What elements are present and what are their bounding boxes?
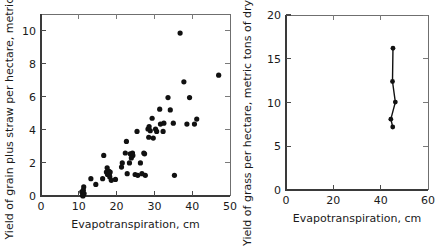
- data-point: [134, 129, 139, 134]
- data-point: [157, 107, 162, 112]
- scatter-chart-grain-yield: 010203040500246810Evapotranspiration, cm…: [0, 0, 238, 248]
- plot-axes: [41, 14, 230, 196]
- y-tick-label: 0: [29, 190, 36, 203]
- plot-frame: [41, 14, 230, 196]
- data-point: [216, 73, 221, 78]
- y-axis-title: Yield of grain plus straw per hectare, m…: [3, 0, 16, 240]
- plot-frame: [286, 15, 428, 190]
- chart-panel-right: 020406005101520Evapotranspiration, cmYie…: [238, 0, 440, 248]
- data-point: [142, 151, 147, 156]
- y-axis-title: Yield of grass per hectare, metric tons …: [241, 0, 254, 247]
- line-chart-grass-yield: 020406005101520Evapotranspiration, cmYie…: [238, 0, 440, 248]
- series-line: [391, 48, 395, 127]
- x-axis-title: Evapotranspiration, cm: [293, 212, 421, 225]
- data-point: [138, 160, 143, 165]
- data-point: [393, 100, 398, 105]
- data-point: [388, 117, 393, 122]
- x-tick-label: 40: [374, 194, 388, 207]
- chart-panel-left: 010203040500246810Evapotranspiration, cm…: [0, 0, 238, 248]
- data-point: [113, 177, 118, 182]
- data-point: [165, 95, 170, 100]
- data-point: [168, 107, 173, 112]
- data-point: [80, 193, 85, 198]
- x-tick-label: 50: [223, 200, 237, 213]
- x-tick-label: 30: [147, 200, 161, 213]
- data-point: [154, 129, 159, 134]
- data-point: [391, 46, 396, 51]
- x-tick-label: 40: [185, 200, 199, 213]
- figure-root: 010203040500246810Evapotranspiration, cm…: [0, 0, 440, 248]
- x-tick-label: 60: [421, 194, 435, 207]
- data-point: [93, 182, 98, 187]
- data-point: [150, 116, 155, 121]
- data-point: [390, 125, 395, 130]
- data-point: [100, 176, 105, 181]
- y-tick-label: 2: [29, 157, 36, 170]
- x-tick-label: 0: [283, 194, 290, 207]
- data-point: [123, 150, 128, 155]
- data-point: [178, 30, 183, 35]
- data-point: [181, 79, 186, 84]
- data-point: [146, 135, 151, 140]
- data-point: [161, 121, 166, 126]
- data-point: [192, 121, 197, 126]
- data-point: [148, 128, 153, 133]
- y-tick-label: 10: [267, 97, 281, 110]
- data-point: [120, 160, 125, 165]
- y-tick-label: 6: [29, 91, 36, 104]
- y-tick-label: 15: [267, 53, 281, 66]
- y-tick-label: 8: [29, 58, 36, 71]
- y-tick-label: 5: [274, 140, 281, 153]
- x-tick-label: 20: [110, 200, 124, 213]
- data-point: [143, 173, 148, 178]
- y-tick-label: 10: [22, 25, 36, 38]
- y-tick-label: 20: [267, 9, 281, 22]
- data-point: [151, 135, 156, 140]
- x-tick-label: 0: [38, 200, 45, 213]
- x-axis-title: Evapotranspiration, cm: [71, 218, 199, 231]
- data-point: [184, 121, 189, 126]
- data-point: [194, 116, 199, 121]
- data-point: [127, 160, 132, 165]
- data-point: [171, 121, 176, 126]
- data-point: [81, 184, 86, 189]
- data-point: [125, 171, 130, 176]
- data-point: [187, 95, 192, 100]
- plot-axes: [286, 15, 428, 190]
- data-point: [390, 79, 395, 84]
- data-point: [88, 176, 93, 181]
- data-point: [108, 169, 113, 174]
- data-point: [124, 139, 129, 144]
- data-point: [172, 173, 177, 178]
- data-point: [160, 129, 165, 134]
- x-tick-label: 10: [72, 200, 86, 213]
- data-point: [130, 153, 135, 158]
- y-tick-label: 0: [274, 184, 281, 197]
- data-point: [101, 153, 106, 158]
- x-tick-label: 20: [326, 194, 340, 207]
- y-tick-label: 4: [29, 124, 36, 137]
